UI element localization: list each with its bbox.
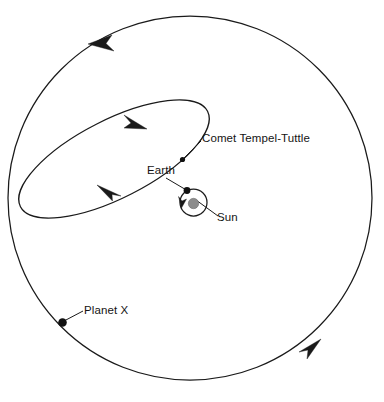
earth-body <box>184 187 191 194</box>
comet-label: Comet Tempel-Tuttle <box>202 132 310 145</box>
earth-label: Earth <box>147 164 175 177</box>
comet-orbit-arrow-upper <box>124 115 147 129</box>
sun-body <box>188 198 198 208</box>
orbit-diagram-canvas <box>0 0 384 402</box>
earth-leader-line <box>166 178 186 190</box>
comet-leader-line <box>184 141 201 158</box>
planet-x-label: Planet X <box>84 304 128 317</box>
planet-x-leader-line <box>64 311 83 321</box>
comet-orbit-arrow-lower <box>97 185 121 201</box>
planet-x-body <box>58 318 67 327</box>
planet-x-orbit-arrow-top-left <box>88 35 114 51</box>
orbit-diagram: Comet Tempel-Tuttle Earth Sun Planet X <box>0 0 384 402</box>
sun-label: Sun <box>217 211 238 224</box>
comet-body <box>180 157 185 162</box>
